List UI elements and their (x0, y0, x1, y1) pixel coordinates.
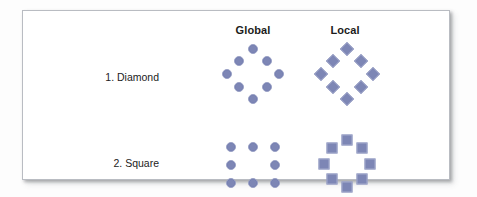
square-element (365, 159, 376, 170)
row-label-square: 2. Square (113, 157, 159, 169)
diamond-element (366, 67, 380, 81)
circle-element (270, 178, 280, 188)
circle-element (248, 142, 258, 152)
circle-element (274, 69, 284, 79)
column-header-local: Local (330, 24, 359, 36)
stimulus-local-square (315, 131, 379, 195)
diamond-element (354, 80, 368, 94)
stimulus-global-square (223, 131, 287, 195)
stimulus-global-diamond (221, 43, 285, 107)
circle-element (226, 160, 236, 170)
circle-element (270, 160, 280, 170)
figure-panel: Global Local 1. Diamond 2. Square (22, 10, 450, 180)
circle-element (226, 178, 236, 188)
diamond-element (326, 80, 340, 94)
circle-element (262, 82, 272, 92)
circle-element (248, 94, 258, 104)
square-element (327, 174, 338, 185)
stimulus-local-diamond (315, 43, 379, 107)
circle-element (248, 44, 258, 54)
circle-element (270, 142, 280, 152)
circle-element (226, 142, 236, 152)
circle-element (234, 56, 244, 66)
circle-element (262, 56, 272, 66)
circle-element (222, 69, 232, 79)
circle-element (248, 178, 258, 188)
diamond-element (326, 54, 340, 68)
circle-element (234, 82, 244, 92)
diamond-element (340, 42, 354, 56)
square-element (327, 143, 338, 154)
row-label-diamond: 1. Diamond (105, 71, 159, 83)
diamond-element (354, 54, 368, 68)
square-element (357, 174, 368, 185)
square-element (342, 182, 353, 193)
figure-root: Global Local 1. Diamond 2. Square (0, 0, 477, 197)
square-element (342, 135, 353, 146)
diamond-element (314, 67, 328, 81)
diamond-element (340, 92, 354, 106)
column-header-global: Global (236, 24, 271, 36)
square-element (319, 159, 330, 170)
square-element (357, 143, 368, 154)
